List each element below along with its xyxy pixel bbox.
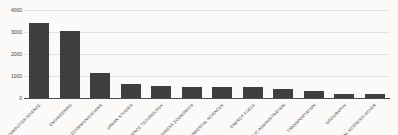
bar-urban-studies bbox=[121, 84, 141, 98]
bar-slot bbox=[116, 10, 147, 98]
plot-area bbox=[24, 10, 390, 98]
bar-slot bbox=[299, 10, 330, 98]
bar-slot bbox=[85, 10, 116, 98]
bar-slot bbox=[360, 10, 391, 98]
bar-energy-fuels bbox=[243, 87, 263, 98]
x-axis-labels: COMPUTER SCIENCEENGINEERINGTELECOMMUNICA… bbox=[24, 100, 390, 134]
y-tick-label: 3000 bbox=[0, 30, 22, 35]
x-axis-label: TRANSPORTATION bbox=[286, 103, 316, 133]
bar-slot bbox=[238, 10, 269, 98]
bar-slot bbox=[55, 10, 86, 98]
bar-slot bbox=[24, 10, 55, 98]
bar-slot bbox=[207, 10, 238, 98]
y-tick-label: 0 bbox=[0, 96, 22, 101]
bar-environmental-sciences bbox=[212, 87, 232, 98]
x-axis-label: URBAN STUDIES bbox=[106, 103, 134, 131]
x-axis-label: ENGINEERING bbox=[48, 103, 72, 127]
x-axis-label: COMPUTER SCIENCE bbox=[7, 103, 42, 135]
y-tick-label: 1000 bbox=[0, 74, 22, 79]
y-tick-label: 4000 bbox=[0, 8, 22, 13]
x-axis-label: GEOGRAPHY bbox=[325, 103, 347, 125]
x-axis-line bbox=[24, 98, 390, 100]
bar-slot bbox=[268, 10, 299, 98]
bars bbox=[24, 10, 390, 98]
screenshot-root: 01000200030004000 COMPUTER SCIENCEENGINE… bbox=[0, 0, 398, 135]
bar-slot bbox=[146, 10, 177, 98]
bar-telecommunications bbox=[90, 73, 110, 98]
bar-business-economics bbox=[182, 87, 202, 98]
x-axis-label: BUSINESS ECONOMICS bbox=[157, 103, 195, 135]
x-axis-label: ENERGY FUELS bbox=[229, 103, 255, 129]
bar-slot bbox=[177, 10, 208, 98]
bar-science-technology bbox=[151, 86, 171, 98]
bar-slot bbox=[329, 10, 360, 98]
bar-computer-science bbox=[29, 23, 49, 98]
bar-chart: 01000200030004000 COMPUTER SCIENCEENGINE… bbox=[0, 0, 398, 135]
bar-engineering bbox=[60, 31, 80, 98]
y-tick-label: 2000 bbox=[0, 52, 22, 57]
